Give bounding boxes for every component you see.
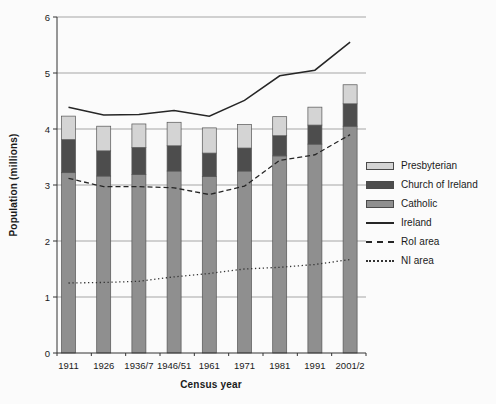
bar-segment-church-of-ireland (62, 140, 76, 173)
x-tick-label: 1936/7 (124, 360, 153, 371)
bar-segment-church-of-ireland (308, 125, 322, 144)
legend-swatch-box-icon (366, 200, 394, 208)
x-tick-label: 1971 (234, 360, 255, 371)
y-tick-label: 0 (45, 348, 50, 359)
x-tick-label: 2001/2 (336, 360, 365, 371)
legend-item-ireland: Ireland (366, 213, 478, 232)
y-tick-label: 1 (45, 292, 50, 303)
bar-segment-church-of-ireland (202, 153, 216, 177)
bar-segment-presbyterian (97, 126, 111, 151)
bar-segment-catholic (167, 171, 181, 353)
bar-segment-catholic (97, 176, 111, 353)
y-tick-label: 3 (45, 180, 50, 191)
x-tick-label: 1926 (93, 360, 114, 371)
legend-label: Catholic (401, 198, 437, 209)
x-tick-label: 1991 (304, 360, 325, 371)
legend-swatch-line-solid-icon (366, 222, 394, 224)
legend: PresbyterianChurch of IrelandCatholicIre… (366, 156, 478, 270)
legend-item-roi-area: RoI area (366, 232, 478, 251)
bar-segment-catholic (273, 156, 287, 353)
bar-segment-church-of-ireland (97, 151, 111, 176)
bar-segment-presbyterian (167, 122, 181, 146)
bar-segment-church-of-ireland (273, 136, 287, 156)
y-tick-label: 4 (45, 124, 50, 135)
legend-item-presbyterian: Presbyterian (366, 156, 478, 175)
x-tick-label: 1946/51 (157, 360, 191, 371)
legend-swatch-box-icon (366, 162, 394, 170)
bar-segment-catholic (308, 144, 322, 353)
legend-label: RoI area (401, 236, 439, 247)
bar-segment-catholic (238, 171, 252, 353)
bar-segment-church-of-ireland (167, 146, 181, 171)
x-tick-label: 1911 (58, 360, 78, 371)
y-tick-label: 6 (45, 12, 50, 23)
bar-segment-catholic (132, 174, 146, 353)
legend-swatch-box-icon (366, 181, 394, 189)
legend-swatch-line-dotted-icon (366, 260, 394, 262)
y-tick-label: 2 (45, 236, 50, 247)
bar-segment-presbyterian (132, 124, 146, 148)
y-tick-label: 5 (45, 68, 50, 79)
line-ireland (69, 42, 351, 116)
bar-segment-church-of-ireland (343, 104, 357, 126)
legend-label: NI area (401, 255, 434, 266)
bar-segment-presbyterian (202, 128, 216, 153)
legend-item-ni-area: NI area (366, 251, 478, 270)
x-tick-label: 1981 (269, 360, 290, 371)
bar-segment-presbyterian (273, 117, 287, 136)
bar-segment-catholic (202, 177, 216, 353)
legend-swatch-line-dashed-icon (366, 241, 394, 243)
bar-segment-presbyterian (308, 107, 322, 125)
bar-segment-catholic (343, 126, 357, 353)
x-tick-label: 1961 (199, 360, 220, 371)
bar-segment-presbyterian (238, 125, 252, 149)
legend-item-church-of-ireland: Church of Ireland (366, 175, 478, 194)
bar-segment-presbyterian (62, 116, 76, 140)
x-axis-title: Census year (180, 379, 242, 390)
legend-item-catholic: Catholic (366, 194, 478, 213)
bar-segment-presbyterian (343, 85, 357, 104)
bar-segment-church-of-ireland (238, 148, 252, 171)
bar-segment-catholic (62, 173, 76, 353)
legend-label: Ireland (401, 217, 432, 228)
legend-label: Church of Ireland (401, 179, 478, 190)
legend-label: Presbyterian (401, 160, 457, 171)
bar-segment-church-of-ireland (132, 147, 146, 174)
y-axis-title: Population (millions) (8, 133, 19, 236)
population-by-religion-chart: 0123456191119261936/71946/51196119711981… (0, 0, 496, 404)
